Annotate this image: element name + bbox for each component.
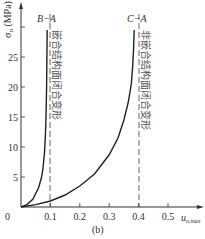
x-axis-label: un,max xyxy=(181,212,201,224)
y-ticks: 510152025 xyxy=(8,27,25,183)
x-axis-arrow-icon xyxy=(197,205,204,209)
series-label-c-a: C−A xyxy=(127,13,147,24)
series-b-a-curve xyxy=(21,30,47,207)
y-tick-label: 25 xyxy=(8,52,18,63)
series-c-a-curve xyxy=(21,30,134,207)
series-label-b-a: B−A xyxy=(37,13,57,24)
figure-caption: (b) xyxy=(92,224,104,236)
x-tick-label: 0.3 xyxy=(103,211,116,222)
y-tick-label: 15 xyxy=(8,112,18,123)
y-axis-arrow-icon xyxy=(19,2,23,9)
x-tick-label: 0.2 xyxy=(74,211,87,222)
closure-deformation-chart: 510152025 00.10.20.30.40.5 σn (MPa) un,m… xyxy=(0,0,205,239)
x-tick-label: 0.1 xyxy=(44,211,57,222)
x-tick-label: 0 xyxy=(5,211,10,222)
annotation-b-a: 嵌合结构面闭合变形 xyxy=(51,30,63,120)
y-tick-label: 5 xyxy=(13,172,18,183)
y-tick-label: 10 xyxy=(8,142,18,153)
x-tick-label: 0.4 xyxy=(132,211,145,222)
annotation-c-a: 非嵌合结构面闭合变形 xyxy=(140,30,152,130)
y-tick-label: 20 xyxy=(8,82,18,93)
y-axis-label: σn (MPa) xyxy=(2,1,15,38)
x-tick-label: 0.5 xyxy=(162,211,175,222)
